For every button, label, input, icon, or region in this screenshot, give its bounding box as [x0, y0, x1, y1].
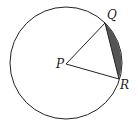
- label-p: P: [55, 57, 65, 71]
- label-r: R: [119, 78, 129, 92]
- geometry-diagram: P Q R: [0, 0, 138, 128]
- radius-pr: [66, 64, 119, 79]
- label-q: Q: [107, 8, 117, 22]
- radius-pq: [66, 23, 105, 64]
